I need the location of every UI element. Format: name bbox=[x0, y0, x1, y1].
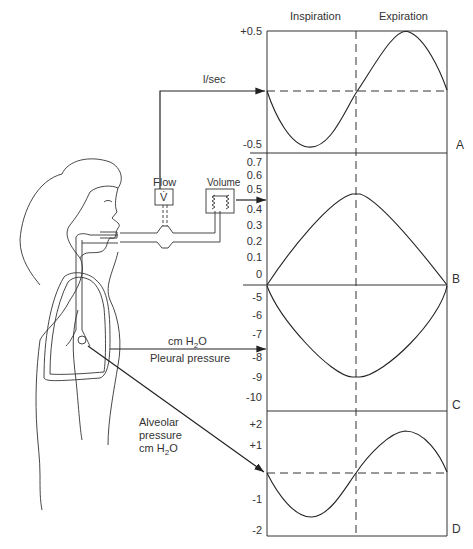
inspiration-label: Inspiration bbox=[290, 10, 341, 22]
alveolar-curve bbox=[267, 431, 447, 517]
tick-c-5: -10 bbox=[232, 391, 262, 403]
volume-meter bbox=[206, 189, 234, 213]
pleural-pressure-label: Pleural pressure bbox=[150, 352, 230, 364]
flow-units-label: l/sec bbox=[203, 73, 226, 85]
alveolus-icon bbox=[78, 336, 86, 344]
tick-c-0: -5 bbox=[232, 291, 262, 303]
mouthpiece-tube bbox=[120, 205, 220, 248]
alveolar-label-line2: pressure bbox=[139, 429, 182, 441]
tick-b-5: 0.2 bbox=[232, 235, 262, 247]
tick-c-3: -8 bbox=[232, 351, 262, 363]
tick-a-0: +0.5 bbox=[232, 25, 262, 37]
chart-frame bbox=[243, 31, 447, 536]
tick-b-0: 0.7 bbox=[232, 156, 262, 168]
tick-c-2: -7 bbox=[232, 328, 262, 340]
flow-symbol: V̇ bbox=[160, 191, 167, 203]
panel-letter-b: B bbox=[452, 272, 460, 286]
flow-label: Flow bbox=[153, 176, 176, 188]
panel-letter-c: C bbox=[452, 398, 461, 412]
alveolar-label-line1: Alveolar bbox=[139, 416, 179, 428]
tick-b-3: 0.4 bbox=[232, 203, 262, 215]
pleural-units-label: cm H2O bbox=[168, 335, 207, 349]
tick-a-1: -0.5 bbox=[232, 138, 262, 150]
alveolar-units-label: cm H2O bbox=[139, 442, 178, 456]
panel-letter-d: D bbox=[452, 522, 461, 536]
tick-d-0: +2 bbox=[232, 418, 262, 430]
tick-c-1: -6 bbox=[232, 309, 262, 321]
expiration-label: Expiration bbox=[379, 10, 428, 22]
tick-b-1: 0.6 bbox=[232, 169, 262, 181]
tick-d-2: -1 bbox=[232, 493, 262, 505]
person-illustration bbox=[20, 159, 121, 510]
flow-curve bbox=[267, 31, 447, 147]
pleural-curve bbox=[267, 286, 447, 377]
tick-d-1: +1 bbox=[232, 439, 262, 451]
tick-d-3: -2 bbox=[232, 524, 262, 536]
tick-c-4: -9 bbox=[232, 371, 262, 383]
tick-b-4: 0.3 bbox=[232, 219, 262, 231]
tick-b-2: 0.5 bbox=[232, 183, 262, 195]
panel-letter-a: A bbox=[456, 138, 464, 152]
tick-b-6: 0.1 bbox=[232, 251, 262, 263]
volume-curve bbox=[267, 194, 447, 285]
tick-b-7: 0 bbox=[232, 268, 262, 280]
